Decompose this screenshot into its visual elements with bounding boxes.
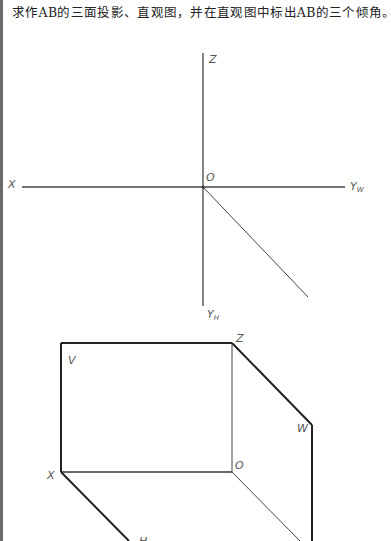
label-o: O — [206, 171, 215, 184]
label-o-3d: O — [235, 459, 244, 472]
w-plane-top-edge — [232, 343, 312, 425]
label-x: X — [7, 178, 16, 191]
label-z-3d: Z — [235, 332, 244, 345]
label-w: W — [297, 422, 309, 435]
label-yw: YW — [350, 180, 365, 194]
label-v: V — [68, 354, 77, 367]
label-z: Z — [208, 53, 217, 66]
label-h: H — [139, 535, 147, 541]
oy-axis — [232, 472, 300, 541]
h-plane-left-edge — [61, 472, 129, 541]
45-degree-line — [203, 187, 308, 297]
projection-axes: Z O X YW YH — [7, 53, 365, 322]
origin-point — [202, 186, 205, 189]
perspective-view: Z V W X O H — [46, 332, 312, 541]
label-x-3d: X — [46, 469, 55, 482]
label-yh: YH — [207, 308, 220, 322]
